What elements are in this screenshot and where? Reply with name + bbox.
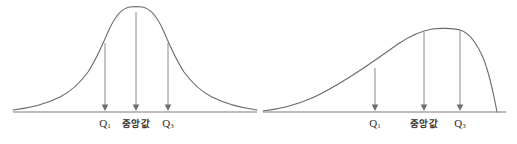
symmetric-q1-label-text: Q bbox=[99, 117, 107, 129]
symmetric-q1-label-sub: 1 bbox=[107, 122, 111, 130]
left-skewed-median-arrow bbox=[421, 32, 428, 111]
left-skewed-q3-label-sub: 3 bbox=[462, 122, 466, 130]
left-skewed-q3-label-text: Q bbox=[454, 117, 462, 129]
left-skewed-q3-label: Q3 bbox=[454, 117, 466, 131]
left-skewed-curve bbox=[263, 28, 497, 112]
symmetric-q1-label: Q1 bbox=[99, 117, 111, 131]
left-skewed-q1-label-text: Q bbox=[369, 117, 377, 129]
left-skewed-median-label: 중앙값 bbox=[410, 118, 437, 130]
left-skewed-q3-arrow bbox=[457, 31, 464, 111]
symmetric-q3-label-text: Q bbox=[162, 117, 170, 129]
symmetric-q1-arrow bbox=[102, 43, 109, 111]
left-skewed-q1-arrow bbox=[372, 68, 379, 111]
symmetric-q3-arrow bbox=[165, 43, 172, 111]
chart-left-skewed-distribution bbox=[263, 28, 506, 112]
symmetric-q3-label: Q3 bbox=[162, 117, 174, 131]
left-skewed-q1-label: Q1 bbox=[369, 117, 381, 131]
symmetric-median-label: 중앙값 bbox=[122, 118, 149, 130]
statistics-figure: Q1 중앙값 Q3 Q1 중앙값 Q3 bbox=[0, 0, 517, 144]
figure-canvas bbox=[0, 0, 517, 144]
chart-symmetric-distribution bbox=[13, 7, 257, 112]
left-skewed-q1-label-sub: 1 bbox=[377, 122, 381, 130]
symmetric-curve bbox=[13, 7, 257, 110]
symmetric-median-arrow bbox=[133, 12, 140, 111]
symmetric-q3-label-sub: 3 bbox=[170, 122, 174, 130]
